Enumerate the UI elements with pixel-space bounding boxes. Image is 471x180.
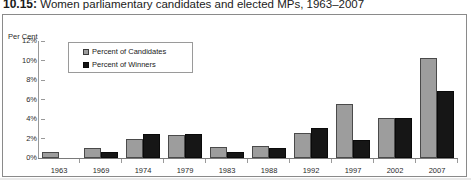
x-axis-label-2002: 2002 bbox=[374, 165, 416, 177]
y-axis-tick-label: 12% bbox=[22, 36, 37, 46]
x-axis-tick-mark bbox=[290, 159, 332, 163]
legend-swatch-icon bbox=[83, 49, 89, 55]
x-axis-tick-mark bbox=[416, 159, 458, 163]
legend-item: Percent of Candidates bbox=[83, 46, 192, 58]
legend-swatch-icon bbox=[83, 62, 89, 68]
x-axis-label-1983: 1983 bbox=[206, 165, 248, 177]
x-axis-label-1969: 1969 bbox=[80, 165, 122, 177]
bar-group bbox=[374, 41, 416, 158]
y-axis-tick-label: 6% bbox=[26, 95, 37, 105]
bar-group bbox=[416, 41, 458, 158]
x-axis-tick-marks bbox=[38, 159, 458, 163]
page-bottom-edge bbox=[0, 178, 471, 180]
x-axis-tick-mark bbox=[374, 159, 416, 163]
bar-candidates bbox=[252, 146, 269, 158]
bar-candidates bbox=[126, 139, 143, 159]
bar-winners bbox=[101, 152, 118, 158]
y-axis-tick-label: 4% bbox=[26, 114, 37, 124]
x-axis-tick-mark bbox=[38, 159, 80, 163]
bar-winners bbox=[311, 128, 328, 158]
legend-item: Percent of Winners bbox=[83, 59, 192, 71]
bar-candidates bbox=[210, 147, 227, 158]
bar-winners bbox=[143, 134, 160, 158]
x-axis-tick-mark bbox=[80, 159, 122, 163]
figure-number: 10.15: bbox=[3, 0, 37, 11]
legend-label: Percent of Candidates bbox=[92, 47, 166, 57]
legend-label: Percent of Winners bbox=[92, 60, 156, 70]
bar-candidates bbox=[168, 135, 185, 158]
x-axis-label-2007: 2007 bbox=[416, 165, 458, 177]
chart-legend: Percent of CandidatesPercent of Winners bbox=[68, 42, 193, 73]
bar-candidates bbox=[294, 133, 311, 158]
x-axis-tick-mark bbox=[332, 159, 374, 163]
bar-group bbox=[290, 41, 332, 158]
bar-group bbox=[206, 41, 248, 158]
bar-candidates bbox=[84, 148, 101, 158]
x-axis-label-1979: 1979 bbox=[164, 165, 206, 177]
figure-caption: 10.15: Women parliamentary candidates an… bbox=[3, 0, 469, 12]
chart-frame: Per Cent 12%10%8%6%4%2%0% 19631969197419… bbox=[2, 14, 467, 177]
figure-title: Women parliamentary candidates and elect… bbox=[40, 0, 364, 10]
x-axis-labels: 1963196919741979198319881992199720022007 bbox=[38, 165, 458, 177]
x-axis-tick-mark bbox=[206, 159, 248, 163]
bar-winners bbox=[353, 140, 370, 158]
bar-candidates bbox=[336, 104, 353, 158]
bar-winners bbox=[185, 134, 202, 158]
x-axis-tick-mark bbox=[248, 159, 290, 163]
bar-winners bbox=[437, 91, 454, 158]
x-axis-label-1997: 1997 bbox=[332, 165, 374, 177]
bar-candidates bbox=[420, 58, 437, 158]
x-axis-tick-mark bbox=[122, 159, 164, 163]
bar-group bbox=[332, 41, 374, 158]
bar-winners bbox=[395, 118, 412, 158]
bar-group bbox=[248, 41, 290, 158]
y-axis-tick-label: 8% bbox=[26, 75, 37, 85]
bar-winners bbox=[227, 152, 244, 158]
y-axis-tick-label: 2% bbox=[26, 134, 37, 144]
x-axis-label-1974: 1974 bbox=[122, 165, 164, 177]
y-axis-tick-label: 0% bbox=[26, 153, 37, 163]
bar-candidates bbox=[378, 118, 395, 158]
x-axis-tick-mark bbox=[164, 159, 206, 163]
bar-candidates bbox=[42, 152, 59, 158]
x-axis-label-1963: 1963 bbox=[38, 165, 80, 177]
x-axis-label-1992: 1992 bbox=[290, 165, 332, 177]
y-axis-tick-label: 10% bbox=[22, 56, 37, 66]
bar-winners bbox=[269, 148, 286, 158]
x-axis-label-1988: 1988 bbox=[248, 165, 290, 177]
